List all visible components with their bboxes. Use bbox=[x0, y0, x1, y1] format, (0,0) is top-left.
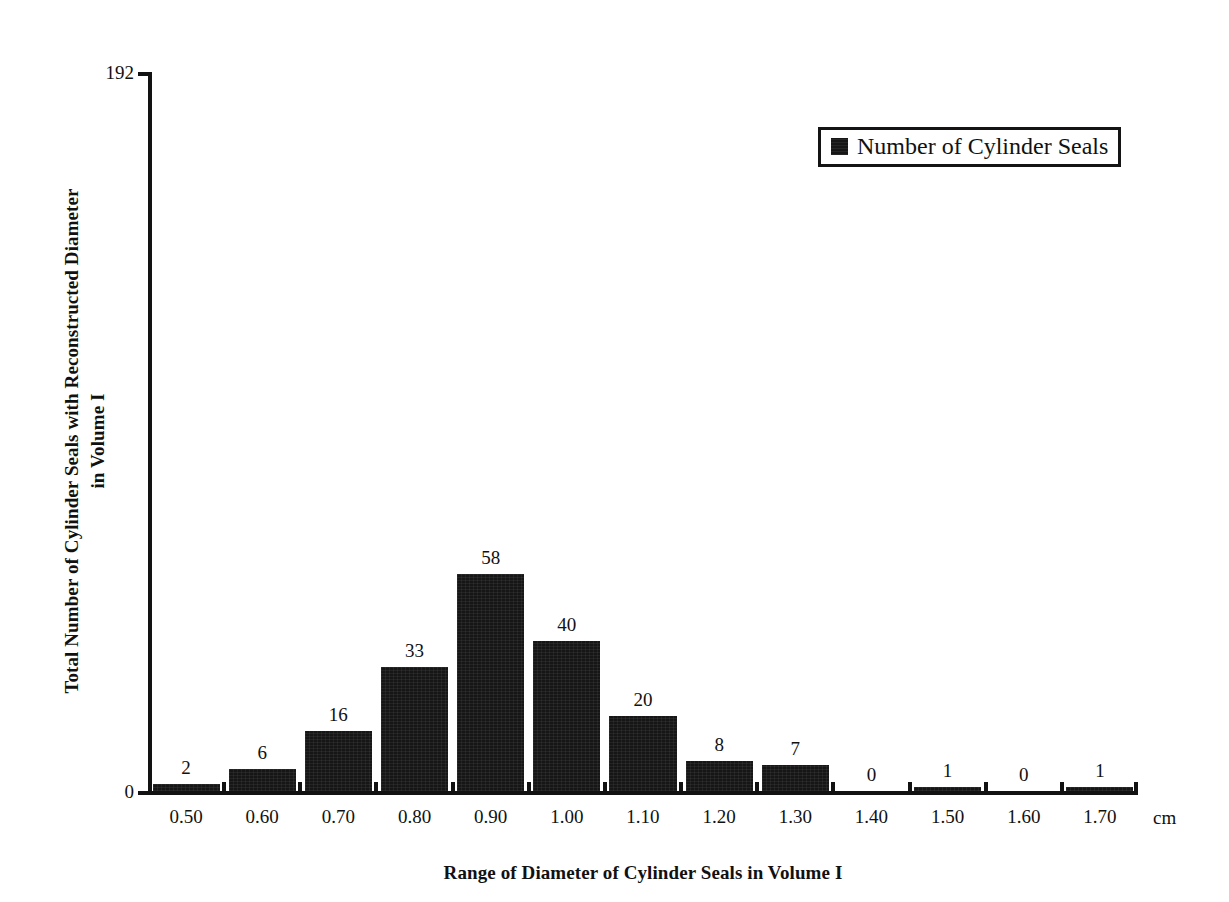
bar-value-label: 6 bbox=[229, 743, 296, 762]
x-axis-tick-label: 0.50 bbox=[153, 807, 220, 826]
bar-value-label: 8 bbox=[686, 735, 753, 754]
y-axis-label-max: 192 bbox=[106, 63, 135, 82]
y-axis-title: Total Number of Cylinder Seals with Reco… bbox=[59, 91, 111, 791]
x-axis-line bbox=[148, 791, 1138, 795]
y-axis-tick-max bbox=[138, 72, 152, 76]
x-axis-tick bbox=[374, 782, 378, 795]
chart-legend: Number of Cylinder Seals bbox=[818, 127, 1121, 167]
y-axis-label-zero: 0 bbox=[125, 782, 135, 801]
x-axis-tick-label: 1.30 bbox=[762, 807, 829, 826]
x-axis-unit-label: cm bbox=[1153, 808, 1176, 827]
x-axis-tick bbox=[755, 782, 759, 795]
y-axis-line bbox=[148, 72, 152, 795]
x-axis-tick bbox=[679, 782, 683, 795]
x-axis-tick bbox=[831, 782, 835, 795]
legend-swatch-icon bbox=[831, 138, 848, 155]
bar bbox=[1066, 787, 1133, 791]
plot-area: 192 0 261633584020870101 0.500.600.700.8… bbox=[148, 72, 1138, 795]
bar-value-label: 2 bbox=[153, 758, 220, 777]
x-axis-tick-label: 0.90 bbox=[457, 807, 524, 826]
bar-value-label: 16 bbox=[305, 705, 372, 724]
legend-label: Number of Cylinder Seals bbox=[857, 134, 1108, 159]
bar bbox=[457, 574, 524, 791]
bar-value-label: 1 bbox=[914, 761, 981, 780]
bar bbox=[381, 667, 448, 791]
x-axis-tick bbox=[451, 782, 455, 795]
x-axis-title: Range of Diameter of Cylinder Seals in V… bbox=[148, 862, 1138, 884]
x-axis-tick-label: 1.70 bbox=[1066, 807, 1133, 826]
x-axis-tick bbox=[1134, 782, 1138, 795]
bar bbox=[305, 731, 372, 791]
bar bbox=[914, 787, 981, 791]
x-axis-tick bbox=[148, 782, 152, 795]
x-axis-tick-label: 1.00 bbox=[533, 807, 600, 826]
x-axis-tick-label: 1.40 bbox=[838, 807, 905, 826]
x-axis-tick-label: 0.60 bbox=[229, 807, 296, 826]
x-axis-tick bbox=[1060, 782, 1064, 795]
x-axis-tick-label: 1.50 bbox=[914, 807, 981, 826]
bar-value-label: 1 bbox=[1066, 761, 1133, 780]
x-axis-tick-label: 1.20 bbox=[686, 807, 753, 826]
bar-value-label: 7 bbox=[762, 739, 829, 758]
x-axis-tick bbox=[908, 782, 912, 795]
bar-value-label: 58 bbox=[457, 548, 524, 567]
x-axis-tick bbox=[603, 782, 607, 795]
bar-value-label: 0 bbox=[990, 765, 1057, 784]
x-axis-tick-label: 1.10 bbox=[609, 807, 676, 826]
bar-value-label: 0 bbox=[838, 765, 905, 784]
bar-chart: Total Number of Cylinder Seals with Reco… bbox=[0, 0, 1229, 902]
bar bbox=[229, 769, 296, 791]
x-axis-tick-label: 0.70 bbox=[305, 807, 372, 826]
bar-value-label: 33 bbox=[381, 641, 448, 660]
bar bbox=[533, 641, 600, 791]
bar bbox=[153, 784, 220, 791]
bar-value-label: 20 bbox=[609, 690, 676, 709]
bar bbox=[609, 716, 676, 791]
x-axis-tick bbox=[298, 782, 302, 795]
bar-value-label: 40 bbox=[533, 615, 600, 634]
x-axis-tick-label: 0.80 bbox=[381, 807, 448, 826]
x-axis-tick-label: 1.60 bbox=[990, 807, 1057, 826]
x-axis-tick bbox=[527, 782, 531, 795]
x-axis-tick bbox=[222, 782, 226, 795]
bar bbox=[686, 761, 753, 791]
bar bbox=[762, 765, 829, 791]
x-axis-tick bbox=[984, 782, 988, 795]
